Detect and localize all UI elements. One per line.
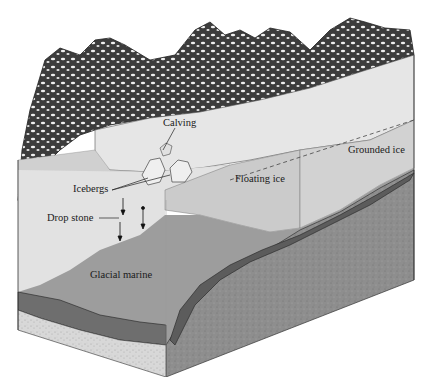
label-drop-stone: Drop stone [47, 212, 94, 223]
label-glacial-marine: Glacial marine [90, 269, 152, 280]
label-grounded-ice: Grounded ice [348, 144, 405, 155]
glacial-block-diagram: Calving Icebergs Drop stone Floating ice… [0, 0, 427, 377]
label-floating-ice: Floating ice [235, 173, 285, 184]
label-calving: Calving [163, 117, 197, 128]
label-icebergs: Icebergs [73, 183, 108, 194]
